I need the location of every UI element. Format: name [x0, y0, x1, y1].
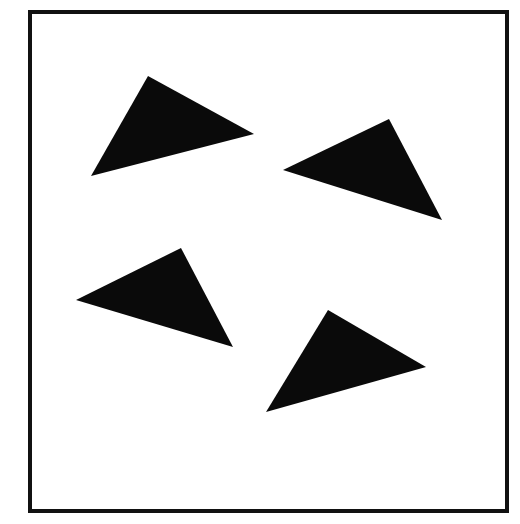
figure-canvas: [0, 0, 520, 524]
triangles-figure: [0, 0, 520, 524]
border-rectangle: [30, 12, 507, 511]
